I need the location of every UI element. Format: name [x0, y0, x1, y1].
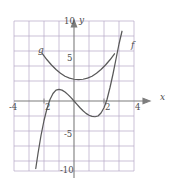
x-axis-arrow	[143, 98, 150, 103]
curve-f-path	[36, 31, 122, 168]
y-tick-label-5: 5	[67, 54, 72, 63]
y-tick-label-10: 10	[64, 17, 75, 26]
curve-label-g: g	[38, 46, 44, 55]
x-tick-label-neg4: -4	[9, 103, 17, 112]
graph-figure: x y g f -4 4 2 2 10 5 -5 -10	[0, 0, 178, 185]
x-tick-label-neg2: 2	[45, 103, 50, 112]
coordinate-plot-svg	[0, 0, 178, 185]
y-axis-label: y	[79, 16, 84, 25]
axes	[14, 20, 150, 178]
curve-label-f: f	[131, 41, 134, 50]
y-tick-label-neg5: -5	[64, 130, 72, 139]
x-tick-label-pos4: 4	[135, 103, 140, 112]
y-tick-label-neg10: -10	[60, 166, 74, 175]
x-axis-label: x	[160, 93, 165, 102]
x-tick-label-pos2: 2	[105, 103, 110, 112]
